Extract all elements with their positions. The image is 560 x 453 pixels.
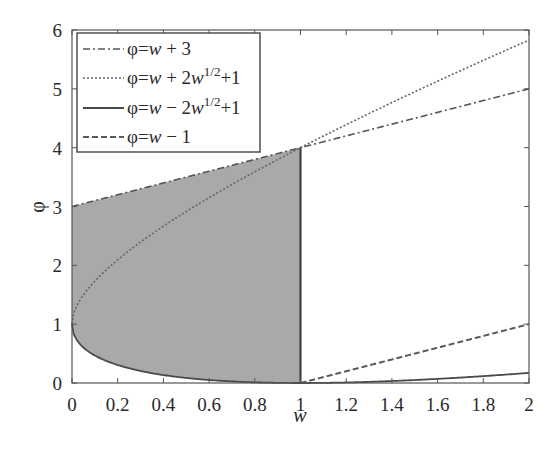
legend: φ=w + 3φ=w + 2w1/2+1φ=w − 2w1/2+1φ=w − 1 [77,33,260,152]
y-tick-label: 2 [53,255,63,276]
y-tick-label: 6 [53,20,63,41]
y-tick-label: 1 [53,314,63,335]
x-tick-label: 2 [524,394,534,415]
x-tick-label: 1.8 [471,394,495,415]
y-axis-label: φ [26,201,49,213]
legend-label-2: φ=w + 2w1/2+1 [127,64,241,88]
shaded-region [72,148,301,383]
x-axis-label: w [293,404,307,426]
y-tick-label: 5 [53,79,63,100]
y-tick-label: 3 [53,197,63,218]
chart-canvas: 00.20.40.60.811.21.41.61.820123456 φ=w +… [0,0,560,453]
x-tick-label: 1.2 [334,394,358,415]
series-line-4 [301,324,530,383]
x-tick-label: 0.2 [106,394,130,415]
legend-label-4: φ=w − 1 [127,126,191,147]
x-tick-label: 0.4 [152,394,176,415]
x-tick-label: 1.4 [380,394,404,415]
legend-label-3: φ=w − 2w1/2+1 [127,94,241,118]
x-tick-label: 0 [67,394,77,415]
x-tick-label: 0.6 [197,394,221,415]
x-tick-label: 1.6 [426,394,450,415]
y-tick-label: 0 [53,373,63,394]
y-tick-label: 4 [53,138,63,159]
x-tick-label: 0.8 [243,394,267,415]
legend-label-1: φ=w + 3 [127,38,191,59]
